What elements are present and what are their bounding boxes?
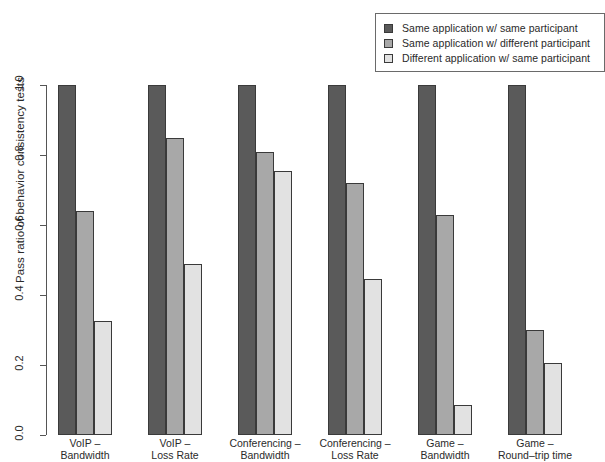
- legend-swatch-icon: [384, 39, 393, 48]
- plot-area: [47, 85, 592, 435]
- bar[interactable]: [256, 152, 274, 436]
- bar[interactable]: [166, 138, 184, 436]
- y-axis-tick-label: 0.8: [13, 136, 25, 170]
- x-axis-label-line: Round–trip time: [470, 450, 600, 462]
- y-axis-tick-label: 0.6: [13, 206, 25, 240]
- chart-legend: Same application w/ same participantSame…: [375, 13, 605, 72]
- bar[interactable]: [436, 215, 454, 436]
- bar[interactable]: [328, 85, 346, 435]
- bar[interactable]: [76, 211, 94, 435]
- y-axis-tick: [40, 295, 46, 296]
- legend-item[interactable]: Same application w/ different participan…: [384, 36, 598, 50]
- legend-item-label: Different application w/ same participan…: [402, 52, 590, 64]
- legend-item[interactable]: Same application w/ same participant: [384, 21, 598, 35]
- y-axis-tick-label: 1.0: [13, 66, 25, 100]
- bar-group: [148, 85, 202, 435]
- legend-swatch-icon: [384, 54, 393, 63]
- bar[interactable]: [58, 85, 76, 435]
- y-axis-tick: [40, 225, 46, 226]
- bar-group: [508, 85, 562, 435]
- y-axis-tick: [40, 155, 46, 156]
- bar[interactable]: [364, 279, 382, 435]
- legend-item[interactable]: Different application w/ same participan…: [384, 51, 598, 65]
- bar-group: [418, 85, 472, 435]
- bar[interactable]: [274, 171, 292, 435]
- y-axis-tick: [40, 435, 46, 436]
- bar[interactable]: [148, 85, 166, 435]
- y-axis-tick: [40, 85, 46, 86]
- bar-group: [328, 85, 382, 435]
- bar[interactable]: [184, 264, 202, 436]
- bar[interactable]: [418, 85, 436, 435]
- legend-swatch-icon: [384, 24, 393, 33]
- bar[interactable]: [526, 330, 544, 435]
- bar[interactable]: [346, 183, 364, 435]
- bar[interactable]: [238, 85, 256, 435]
- bar[interactable]: [94, 321, 112, 435]
- legend-item-label: Same application w/ same participant: [402, 22, 578, 34]
- x-axis-label: Game –Round–trip time: [470, 438, 600, 461]
- bar[interactable]: [454, 405, 472, 435]
- y-axis-tick: [40, 365, 46, 366]
- legend-item-label: Same application w/ different participan…: [402, 37, 590, 49]
- bar[interactable]: [544, 363, 562, 435]
- bar[interactable]: [508, 85, 526, 435]
- y-axis-tick-label: 0.2: [13, 346, 25, 380]
- bar-group: [238, 85, 292, 435]
- bar-group: [58, 85, 112, 435]
- x-axis-label-line: Game –: [470, 438, 600, 450]
- y-axis-tick-label: 0.4: [13, 276, 25, 310]
